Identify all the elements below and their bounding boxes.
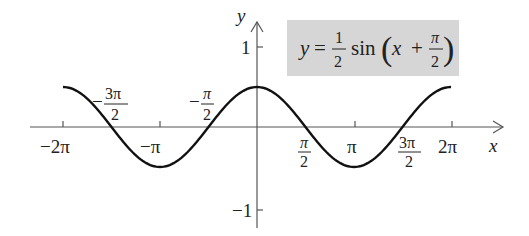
- svg-text:=: =: [314, 36, 326, 60]
- svg-text:y: y: [298, 36, 310, 60]
- svg-text:x: x: [488, 135, 498, 156]
- svg-text:3π: 3π: [399, 134, 415, 151]
- svg-text:): ): [443, 30, 454, 68]
- svg-text:1: 1: [335, 29, 343, 46]
- svg-text:(: (: [381, 30, 392, 68]
- svg-text:x: x: [391, 36, 402, 60]
- svg-text:+: +: [411, 36, 423, 60]
- svg-text:−: −: [189, 91, 200, 112]
- svg-text:2: 2: [431, 53, 439, 70]
- svg-text:π: π: [300, 134, 309, 151]
- y-axis: [251, 22, 263, 228]
- svg-text:y: y: [235, 5, 246, 26]
- svg-text:3π: 3π: [105, 85, 121, 102]
- svg-text:−π: −π: [140, 136, 161, 157]
- svg-text:1: 1: [241, 37, 251, 58]
- svg-text:π: π: [347, 136, 357, 157]
- svg-text:2: 2: [203, 106, 211, 123]
- svg-text:2: 2: [334, 53, 342, 70]
- chart: y = 1 2 sin ( x + π 2 ) y x 1 −1 −2π: [0, 0, 529, 236]
- svg-text:π: π: [431, 29, 440, 46]
- svg-text:−1: −1: [232, 200, 252, 221]
- x-axis: [30, 121, 503, 133]
- svg-text:2: 2: [111, 106, 119, 123]
- svg-text:sin: sin: [351, 36, 376, 60]
- svg-text:2π: 2π: [438, 136, 458, 157]
- chart-canvas: y = 1 2 sin ( x + π 2 ) y x 1 −1 −2π: [0, 0, 529, 236]
- svg-text:2: 2: [405, 153, 413, 170]
- svg-text:π: π: [203, 85, 212, 102]
- svg-text:2: 2: [300, 153, 308, 170]
- svg-text:−2π: −2π: [40, 136, 70, 157]
- svg-text:−: −: [92, 91, 103, 112]
